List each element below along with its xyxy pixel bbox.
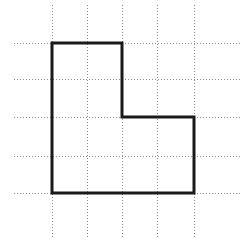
grid-figure-svg bbox=[0, 0, 248, 246]
canvas-background bbox=[0, 0, 248, 246]
figure-canvas bbox=[0, 0, 248, 246]
